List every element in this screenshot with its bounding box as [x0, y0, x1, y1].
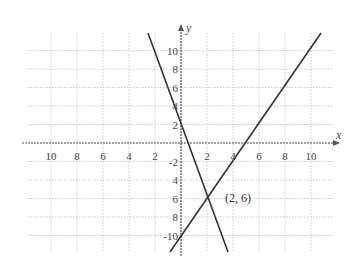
- x-tick-label: 4: [230, 150, 236, 162]
- y-tick-label: 4: [173, 174, 179, 186]
- x-tick-label: 2: [152, 150, 158, 162]
- intersection-label: (2, 6): [225, 191, 251, 205]
- y-tick-label: 8: [173, 211, 179, 223]
- coordinate-plane: 108642246810108642-2468-10 x y (2, 6): [0, 0, 358, 267]
- y-tick-label: 4: [173, 100, 179, 112]
- x-tick-label: 2: [204, 150, 210, 162]
- x-tick-label: 8: [282, 150, 288, 162]
- x-tick-label: 10: [306, 150, 318, 162]
- y-tick-label: -10: [163, 230, 178, 242]
- x-tick-label: 8: [74, 150, 80, 162]
- axes: [22, 24, 340, 256]
- y-tick-label: 10: [167, 45, 179, 57]
- x-tick-label: 6: [100, 150, 106, 162]
- y-tick-label: 6: [173, 193, 179, 205]
- y-tick-label: 6: [173, 82, 179, 94]
- y-axis-label: y: [185, 21, 192, 35]
- x-tick-label: 10: [46, 150, 58, 162]
- y-tick-label: 8: [173, 63, 179, 75]
- x-tick-label: 6: [256, 150, 262, 162]
- x-axis-label: x: [335, 128, 342, 142]
- y-tick-label: -2: [169, 156, 178, 168]
- x-tick-label: 4: [126, 150, 132, 162]
- y-tick-label: 2: [173, 119, 179, 131]
